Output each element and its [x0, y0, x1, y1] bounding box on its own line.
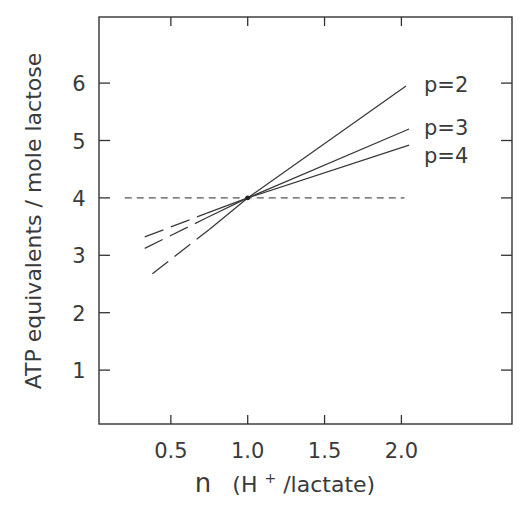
chart: 0.51.01.52.0 123456 p=2p=3p=4 ATP equiva…	[0, 0, 530, 510]
x-tick-label: 2.0	[385, 439, 418, 463]
series-label-p3: p=3	[424, 116, 468, 140]
intersection-point	[245, 196, 250, 201]
y-tick-label: 3	[72, 244, 85, 268]
series-p2	[152, 86, 406, 274]
x-axis-title: n (H + /lactate)	[195, 463, 375, 498]
x-axis-title-open: (H	[232, 472, 257, 497]
x-tick-label: 1.5	[308, 439, 341, 463]
x-tick-label: 1.0	[231, 439, 264, 463]
y-tick-label: 5	[72, 130, 85, 154]
series-solid-segment	[206, 129, 409, 218]
y-tick-label: 4	[72, 187, 85, 211]
x-axis-title-sup: +	[264, 470, 276, 486]
x-axis-ticks: 0.51.01.52.0	[154, 17, 418, 463]
series-labels: p=2p=3p=4	[424, 73, 468, 168]
x-axis-title-n: n	[195, 468, 211, 498]
y-tick-label: 1	[72, 359, 85, 383]
series-p4	[145, 145, 409, 237]
series-lines	[145, 86, 409, 274]
series-label-p4: p=4	[424, 144, 468, 168]
y-tick-label: 6	[72, 72, 85, 96]
series-dashed-segment	[152, 229, 209, 273]
series-solid-segment	[209, 86, 406, 230]
y-axis-title: ATP equivalents / mole lactose	[21, 53, 46, 389]
x-axis-title-rest: /lactate)	[283, 472, 375, 497]
series-label-p2: p=2	[424, 73, 468, 97]
y-tick-label: 2	[72, 302, 85, 326]
x-tick-label: 0.5	[154, 439, 187, 463]
